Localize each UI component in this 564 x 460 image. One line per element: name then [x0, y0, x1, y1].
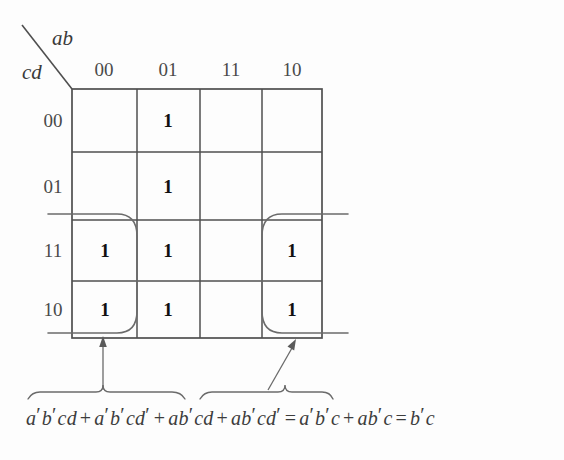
- eq-prime-1: ′: [36, 404, 42, 426]
- axis-label-columns: ab: [52, 28, 73, 49]
- eq-seg-17: c: [426, 407, 435, 429]
- right-arrow-head: [288, 339, 297, 351]
- column-header-11: 11: [206, 60, 256, 79]
- eq-prime-2: ′: [52, 404, 58, 426]
- eq-seg-10: cd: [257, 407, 276, 429]
- row-header-10: 10: [33, 300, 73, 319]
- cell-r10-c10: 1: [267, 300, 317, 319]
- cell-r01-c01: 1: [143, 177, 193, 196]
- eq-prime-11: ′: [378, 404, 384, 426]
- eq-plus-4: +: [340, 407, 357, 429]
- axis-label-rows: cd: [22, 62, 42, 83]
- eq-plus-3: +: [214, 407, 231, 429]
- cell-r10-c00: 1: [80, 300, 130, 319]
- eq-seg-7: ab: [168, 407, 188, 429]
- eq-seg-3: cd: [58, 407, 77, 429]
- eq-seg-2: b: [42, 407, 52, 429]
- eq-prime-7: ′: [251, 404, 257, 426]
- kmap-figure: ab cd 00 01 11 10 00 01 11 10 1 1 1 1 1 …: [0, 0, 564, 460]
- eq-prime-6: ′: [189, 404, 195, 426]
- eq-seg-12: b: [315, 407, 325, 429]
- eq-prime-5: ′: [145, 404, 151, 426]
- cell-r11-c01: 1: [143, 241, 193, 260]
- column-header-10: 10: [267, 60, 317, 79]
- eq-seg-11: a: [299, 407, 309, 429]
- eq-prime-12: ′: [420, 404, 426, 426]
- eq-seg-8: cd: [194, 407, 213, 429]
- row-header-11: 11: [33, 241, 73, 260]
- eq-prime-9: ′: [310, 404, 316, 426]
- row-header-00: 00: [33, 111, 73, 130]
- eq-plus-2: +: [151, 407, 168, 429]
- cell-r00-c01: 1: [143, 111, 193, 130]
- eq-seg-6: cd: [126, 407, 145, 429]
- eq-seg-1: a: [26, 407, 36, 429]
- column-header-01: 01: [143, 60, 193, 79]
- cell-r11-c10: 1: [267, 241, 317, 260]
- eq-seg-14: ab: [357, 407, 377, 429]
- eq-seg-5: b: [110, 407, 120, 429]
- eq-seg-16: b: [410, 407, 420, 429]
- cell-r11-c00: 1: [80, 241, 130, 260]
- eq-seg-9: ab: [231, 407, 251, 429]
- eq-plus-1: +: [77, 407, 94, 429]
- eq-equals-2: =: [393, 407, 410, 429]
- eq-seg-13: c: [331, 407, 340, 429]
- right-underbrace: [200, 385, 333, 399]
- column-header-00: 00: [79, 60, 129, 79]
- cell-r10-c01: 1: [143, 300, 193, 319]
- eq-seg-4: a: [94, 407, 104, 429]
- eq-equals-1: =: [282, 407, 299, 429]
- eq-prime-10: ′: [325, 404, 331, 426]
- row-header-01: 01: [33, 177, 73, 196]
- eq-prime-4: ′: [120, 404, 126, 426]
- left-underbrace: [28, 385, 185, 399]
- right-arrow-shaft: [268, 348, 292, 390]
- boolean-equation: a′b′cd+a′b′cd′+ab′cd+ab′cd′=a′b′c+ab′c=b…: [26, 407, 435, 430]
- eq-seg-15: c: [383, 407, 392, 429]
- eq-prime-8: ′: [276, 404, 282, 426]
- eq-prime-3: ′: [105, 404, 111, 426]
